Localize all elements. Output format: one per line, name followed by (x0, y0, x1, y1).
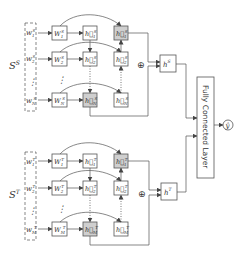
target-group: ST w1T w2T ⋮ wMT W1T W2T ⋮ WMT (9, 136, 197, 245)
svg-text:wMT: wMT (26, 225, 37, 235)
source-backward-state-2: h⃖2S (114, 52, 128, 66)
source-backward-state-n: h⃖NS (114, 93, 129, 107)
svg-text:wNS: wNS (26, 96, 37, 106)
target-embedding-ellipsis: ⋮ (57, 204, 66, 214)
source-output-vector: hS (160, 55, 176, 72)
bilstm-architecture-diagram: SS w1S w2S ⋮ wNS W1S W2S ⋮ WNS (0, 0, 247, 258)
source-input-1: w1S (26, 28, 36, 38)
source-input-2: w2S (26, 54, 36, 64)
svg-text:w2S: w2S (26, 54, 36, 64)
target-embedding-2: W2T (52, 181, 67, 195)
svg-text:h⃗2S: h⃗2S (85, 55, 97, 65)
prediction-output: ŷ (223, 120, 233, 130)
svg-text:w2T: w2T (26, 184, 36, 194)
target-forward-state-2: h⃗2T (83, 181, 97, 195)
svg-text:h⃖MT: h⃖MT (116, 225, 129, 235)
svg-text:w1S: w1S (26, 28, 36, 38)
svg-text:w1T: w1T (26, 157, 36, 167)
svg-text:h⃖1T: h⃖1T (116, 157, 128, 167)
target-input-2: w2T (26, 184, 36, 194)
target-embedding-m: WMT (52, 222, 67, 236)
svg-text:h⃗1T: h⃗1T (85, 157, 97, 167)
svg-text:h⃖2S: h⃖2S (116, 55, 128, 65)
source-input-n: wNS (26, 96, 37, 106)
target-concat-symbol: ⊕ (138, 189, 146, 199)
target-group-label: ST (9, 188, 21, 200)
svg-text:W1S: W1S (54, 29, 64, 39)
svg-text:h⃖2T: h⃖2T (116, 184, 128, 194)
source-forward-state-2: h⃗2S (83, 52, 97, 66)
source-forward-state-n: h⃗NS (83, 93, 98, 107)
target-backward-state-m: h⃖MT (114, 222, 129, 236)
svg-text:Fully Connected Layer: Fully Connected Layer (201, 85, 210, 169)
svg-text:h⃖1S: h⃖1S (116, 29, 128, 39)
target-input-ellipsis: ⋮ (28, 206, 37, 216)
source-embedding-1: W1S (52, 26, 67, 40)
source-group-label: SS (9, 59, 20, 71)
svg-text:h⃗1S: h⃗1S (85, 29, 97, 39)
source-forward-state-1: h⃗1S (83, 26, 97, 40)
svg-text:h⃗MT: h⃗MT (85, 225, 98, 235)
source-concat-symbol: ⊕ (137, 60, 145, 70)
source-input-ellipsis: ⋮ (28, 77, 37, 87)
target-backward-state-2: h⃖2T (114, 181, 128, 195)
target-backward-state-1: h⃖1T (114, 154, 128, 168)
svg-text:WMT: WMT (54, 225, 66, 235)
svg-text:W2T: W2T (54, 184, 64, 194)
source-backward-state-1: h⃖1S (114, 26, 128, 40)
svg-text:W1T: W1T (54, 157, 64, 167)
target-input-m: wMT (26, 225, 37, 235)
fully-connected-layer: Fully Connected Layer (197, 77, 214, 178)
svg-text:h⃗NS: h⃗NS (85, 96, 98, 106)
target-forward-state-m: h⃗MT (83, 222, 98, 236)
svg-text:W2S: W2S (54, 55, 64, 65)
svg-text:WNS: WNS (54, 96, 65, 106)
source-group: SS w1S w2S ⋮ wNS W1S W2S ⋮ WNS (9, 15, 197, 118)
target-forward-state-1: h⃗1T (83, 154, 97, 168)
source-embedding-ellipsis: ⋮ (57, 75, 66, 85)
source-embedding-2: W2S (52, 52, 67, 66)
svg-text:h⃖NS: h⃖NS (116, 96, 129, 106)
svg-text:h⃗2T: h⃗2T (85, 184, 97, 194)
target-embedding-1: W1T (52, 154, 67, 168)
source-embedding-n: WNS (52, 93, 67, 107)
target-input-1: w1T (26, 157, 36, 167)
target-output-vector: hT (161, 183, 177, 200)
